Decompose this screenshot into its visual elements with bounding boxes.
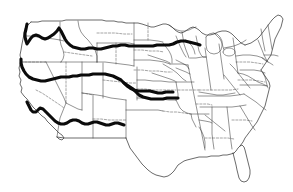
map-background — [0, 0, 293, 192]
us-route-map-figure — [0, 0, 293, 192]
us-map-svg — [0, 0, 293, 192]
